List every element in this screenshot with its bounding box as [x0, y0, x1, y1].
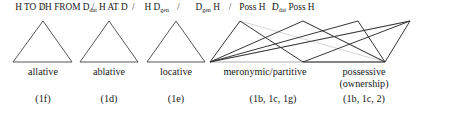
strand-right-base-to-apex-dat-poss [303, 21, 410, 62]
strand-left-to-apex-poss-h [210, 21, 358, 62]
category-line-1: allative [28, 66, 58, 77]
faded-strand-b [240, 21, 385, 62]
triangle-group [13, 21, 205, 62]
triangle-allative [13, 21, 72, 62]
example-code-locative: (1e) [168, 93, 184, 105]
semantic-map-figure: H TO D / H FROM Ddat / H AT D / H Dgen /… [0, 0, 454, 113]
strand-apex-gen-h-down [303, 21, 385, 62]
category-label-ablative: ablative [93, 66, 125, 78]
example-code-allative: (1f) [35, 93, 50, 105]
example-code-meronymic: (1b, 1c, 1g) [250, 93, 297, 105]
strand-group [210, 21, 410, 62]
category-line-2: (ownership) [339, 78, 388, 90]
strand-left-to-apex-dat-poss [210, 21, 410, 62]
category-label-possessive: possessive (ownership) [339, 66, 388, 89]
strand-apex-meronymic-down [240, 21, 303, 62]
example-code-ablative: (1d) [101, 93, 118, 105]
triangle-locative [147, 21, 205, 62]
triangle-ablative [80, 21, 138, 62]
diagram-line-art [0, 0, 454, 113]
example-code-possessive: (1b, 1c, 2) [343, 93, 385, 105]
category-label-locative: locative [160, 66, 192, 78]
category-line-1: meronymic/partitive [223, 66, 306, 77]
category-line-1: ablative [93, 66, 125, 77]
strand-left-to-apex-gen-h [210, 21, 303, 62]
category-label-allative: allative [28, 66, 58, 78]
strand-apex-dat-poss-down [385, 21, 410, 62]
category-line-1: locative [160, 66, 192, 77]
category-line-1: possessive [342, 66, 385, 77]
category-label-meronymic-partitive: meronymic/partitive [223, 66, 306, 78]
